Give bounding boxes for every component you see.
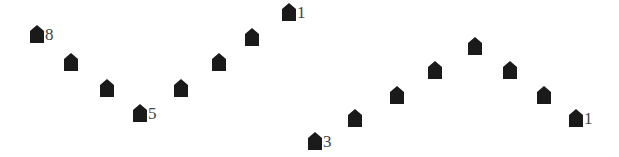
house-marker-icon xyxy=(537,86,551,104)
house-marker-icon xyxy=(212,53,226,71)
house-marker-icon xyxy=(390,86,404,104)
house-marker-icon xyxy=(282,3,296,21)
house-marker-icon xyxy=(569,109,583,127)
house-marker-icon xyxy=(308,132,322,150)
marker-label: 8 xyxy=(45,26,54,43)
house-marker-icon xyxy=(245,28,259,46)
house-marker-icon xyxy=(100,79,114,97)
house-marker-icon xyxy=(428,61,442,79)
marker-label: 5 xyxy=(148,105,157,122)
house-marker-icon xyxy=(64,53,78,71)
house-marker-icon xyxy=(503,61,517,79)
marker-label: 1 xyxy=(584,110,593,127)
house-marker-icon xyxy=(174,79,188,97)
marker-label: 1 xyxy=(297,4,306,21)
house-marker-icon xyxy=(133,104,147,122)
house-marker-icon xyxy=(30,25,44,43)
house-marker-icon xyxy=(348,109,362,127)
house-marker-icon xyxy=(468,37,482,55)
marker-label: 3 xyxy=(323,133,332,150)
